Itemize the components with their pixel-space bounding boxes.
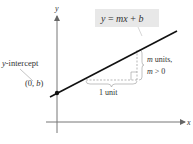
x-axis-label: x xyxy=(186,118,191,127)
run-label: 1 unit xyxy=(99,88,118,97)
intercept-point-label: (0, b) xyxy=(25,78,44,88)
equation-label: y = mx + b xyxy=(100,13,143,24)
run-brace xyxy=(86,81,137,87)
slope-intercept-diagram: y x y = mx + b 1 unit m units, m > 0 y-i… xyxy=(0,0,193,144)
rise-label-line1: m units, xyxy=(147,55,172,64)
right-angle-marker xyxy=(131,72,137,80)
equation-leader-line xyxy=(138,27,142,36)
rise-brace xyxy=(139,50,144,80)
y-intercept-point xyxy=(55,91,59,95)
y-axis-label: y xyxy=(54,4,59,13)
rise-label-line2: m > 0 xyxy=(147,67,165,76)
y-intercept-label: y-intercept xyxy=(1,58,39,68)
